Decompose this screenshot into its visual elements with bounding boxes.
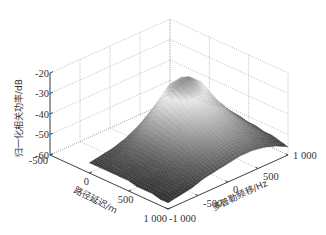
x-tick-label: 0 [84,176,89,187]
z-tick [50,72,53,73]
z-axis-label: 归一化相关功率/dB [13,79,24,157]
y-axis-label: 多普勒频移/Hz [210,177,269,212]
x-tick-label: 500 [118,194,134,205]
z-tick-label: -30 [35,88,49,99]
gridline-z-left-wall [50,19,170,73]
y-tick [166,208,169,209]
y-tick [286,154,289,155]
y-tick [196,194,199,195]
z-tick-label: -50 [35,129,49,140]
z-tick-label: -40 [35,109,49,120]
x-tick-label: 1 000 [143,213,167,224]
x-tick [129,190,132,191]
gridline-z-right-wall [170,19,288,73]
y-tick-label: 1 000 [293,150,317,161]
z-tick-label: -20 [35,68,49,79]
x-axis-label: 路径延迟/m [72,184,120,216]
y-tick [256,167,259,168]
y-tick-label: -1 000 [169,213,196,224]
x-tick-label: -500 [29,155,48,166]
x-tick [89,172,92,173]
surface-chart: -60-50-40-30-20-50005001 000-1 000-50005… [0,0,326,235]
x-tick [168,208,171,209]
y-tick [226,181,229,182]
